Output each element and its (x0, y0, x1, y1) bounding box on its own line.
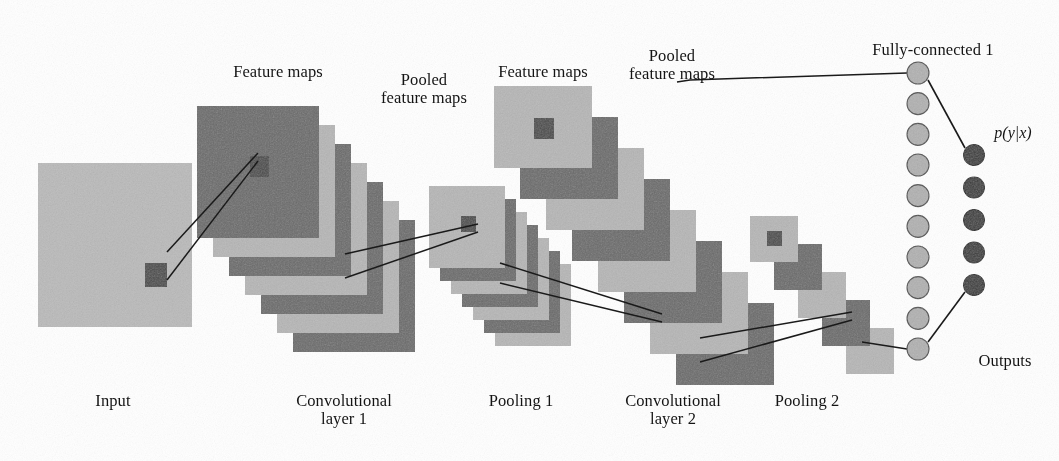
conv-layer-1-stack (197, 106, 415, 352)
cnn-architecture-svg (0, 0, 1059, 461)
fc-neuron-node[interactable] (907, 307, 929, 329)
fc-neuron-node[interactable] (907, 185, 929, 207)
output-neuron-group (964, 145, 985, 296)
fc-last-to-output-last-line (928, 292, 965, 342)
output-neuron-node[interactable] (964, 210, 985, 231)
fc-neuron-node[interactable] (907, 246, 929, 268)
fc-neuron-node[interactable] (907, 215, 929, 237)
fc-neuron-node[interactable] (907, 338, 929, 360)
fc-neuron-node[interactable] (907, 123, 929, 145)
fc-neuron-node[interactable] (907, 277, 929, 299)
diagram-canvas: Feature mapsPooled feature mapsFeature m… (0, 0, 1059, 461)
output-neuron-node[interactable] (964, 242, 985, 263)
input-receptive-field-patch (145, 263, 167, 287)
fc-neuron-node[interactable] (907, 62, 929, 84)
fc-neuron-node[interactable] (907, 154, 929, 176)
pool2-top-to-fc-first-line (677, 73, 907, 82)
pooling-2-receptive-field-patch (767, 231, 782, 246)
output-neuron-node[interactable] (964, 275, 985, 296)
output-neuron-node[interactable] (964, 145, 985, 166)
pooling-1-receptive-field-patch (461, 216, 476, 232)
fc-neuron-node[interactable] (907, 93, 929, 115)
input-image (38, 163, 192, 327)
fc-neuron-group (907, 62, 929, 360)
fc-first-to-output-first-line (928, 80, 965, 148)
conv-layer-2-receptive-field-patch (534, 118, 554, 139)
output-neuron-node[interactable] (964, 177, 985, 198)
